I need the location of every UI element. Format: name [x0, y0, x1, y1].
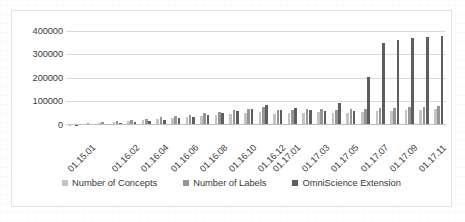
bar[interactable] [306, 109, 309, 125]
bar-group[interactable] [285, 19, 300, 125]
bar[interactable] [335, 110, 338, 125]
x-axis-tick-label: 01.16.10 [227, 142, 259, 174]
bar-group[interactable] [402, 19, 417, 125]
bar[interactable] [247, 109, 250, 125]
bar[interactable] [353, 111, 356, 125]
chart-container: 0100000200000300000400000 01.15.0101.16.… [11, 10, 452, 207]
bar-group[interactable] [81, 19, 96, 125]
bar[interactable] [294, 108, 297, 125]
legend-swatch-omniscience [292, 180, 298, 186]
bar-group[interactable] [387, 19, 402, 125]
bar[interactable] [367, 77, 370, 125]
bar[interactable] [350, 109, 353, 125]
bar-group[interactable] [183, 19, 198, 125]
x-axis-tick-label: 01.15.01 [66, 142, 98, 174]
bar-group[interactable] [431, 19, 446, 125]
bar[interactable] [251, 109, 254, 125]
y-axis-tick-label: 200000 [15, 73, 63, 83]
y-axis: 0100000200000300000400000 [15, 19, 63, 125]
bar[interactable] [265, 105, 268, 125]
bar[interactable] [376, 111, 379, 125]
bar[interactable] [426, 37, 429, 125]
x-axis-tick-label: 01.17.09 [388, 142, 420, 174]
legend-swatch-labels [183, 180, 189, 186]
bar[interactable] [441, 36, 444, 126]
bar[interactable] [309, 110, 312, 125]
legend-item[interactable]: Number of Concepts [62, 177, 157, 188]
bar[interactable] [382, 43, 385, 125]
bar-group[interactable] [271, 19, 286, 125]
bar-group[interactable] [124, 19, 139, 125]
bar-group[interactable] [256, 19, 271, 125]
y-axis-tick-label: 0 [15, 120, 63, 130]
bar[interactable] [423, 107, 426, 125]
x-axis-tick-label: 01.17.07 [359, 142, 391, 174]
bar[interactable] [405, 110, 408, 125]
x-axis-tick-label: 01.16.02 [110, 142, 142, 174]
bar[interactable] [262, 107, 265, 125]
bar-group[interactable] [358, 19, 373, 125]
legend-item-label: Number of Labels [193, 177, 266, 188]
x-axis-tick-label: 01.17.11 [417, 143, 448, 174]
bar[interactable] [280, 110, 283, 125]
bar-group[interactable] [95, 19, 110, 125]
bar-group[interactable] [329, 19, 344, 125]
legend-item-label: OmniScience Extension [302, 177, 400, 188]
legend-item-label: Number of Concepts [72, 177, 157, 188]
bar[interactable] [397, 40, 400, 125]
bar[interactable] [437, 106, 440, 125]
bar[interactable] [411, 38, 414, 125]
bar-group[interactable] [66, 19, 81, 125]
bar[interactable] [390, 111, 393, 125]
bar-group[interactable] [110, 19, 125, 125]
bar-group[interactable] [344, 19, 359, 125]
y-axis-tick-label: 400000 [15, 26, 63, 36]
x-axis: 01.15.0101.16.0201.16.0401.16.0601.16.08… [66, 126, 446, 174]
bar-group[interactable] [168, 19, 183, 125]
bar-group[interactable] [227, 19, 242, 125]
bar-group[interactable] [417, 19, 432, 125]
bar-group[interactable] [197, 19, 212, 125]
bar-group[interactable] [139, 19, 154, 125]
bar[interactable] [291, 110, 294, 125]
bar[interactable] [419, 110, 422, 125]
bar-group[interactable] [241, 19, 256, 125]
bars-layer [66, 19, 446, 125]
bar-group[interactable] [300, 19, 315, 125]
x-axis-tick-label: 01.16.04 [139, 142, 171, 174]
bar-group[interactable] [212, 19, 227, 125]
y-axis-tick-label: 300000 [15, 49, 63, 59]
bar[interactable] [320, 109, 323, 125]
bar[interactable] [277, 110, 280, 125]
x-axis-tick-label: 01.16.06 [169, 142, 201, 174]
chart-plot-wrapper: 0100000200000300000400000 01.15.0101.16.… [12, 11, 451, 206]
legend-item[interactable]: Number of Labels [183, 177, 266, 188]
bar[interactable] [364, 109, 367, 125]
bar[interactable] [236, 111, 239, 125]
chart-legend: Number of ConceptsNumber of LabelsOmniSc… [12, 177, 451, 188]
plot-area [66, 19, 446, 125]
bar-group[interactable] [154, 19, 169, 125]
bar-group[interactable] [373, 19, 388, 125]
y-axis-tick-label: 100000 [15, 96, 63, 106]
bar-group[interactable] [314, 19, 329, 125]
bar[interactable] [338, 103, 341, 125]
x-axis-baseline [66, 124, 446, 125]
x-axis-tick-label: 01.17.05 [329, 142, 361, 174]
x-axis-tick-label: 01.16.08 [198, 142, 230, 174]
bar[interactable] [324, 111, 327, 125]
bar[interactable] [233, 110, 236, 125]
legend-swatch-concepts [62, 180, 68, 186]
legend-item[interactable]: OmniScience Extension [292, 177, 400, 188]
x-axis-tick-label: 01.17.03 [300, 142, 332, 174]
bar[interactable] [393, 108, 396, 125]
bar[interactable] [408, 107, 411, 125]
bar[interactable] [434, 109, 437, 125]
bar[interactable] [379, 108, 382, 125]
